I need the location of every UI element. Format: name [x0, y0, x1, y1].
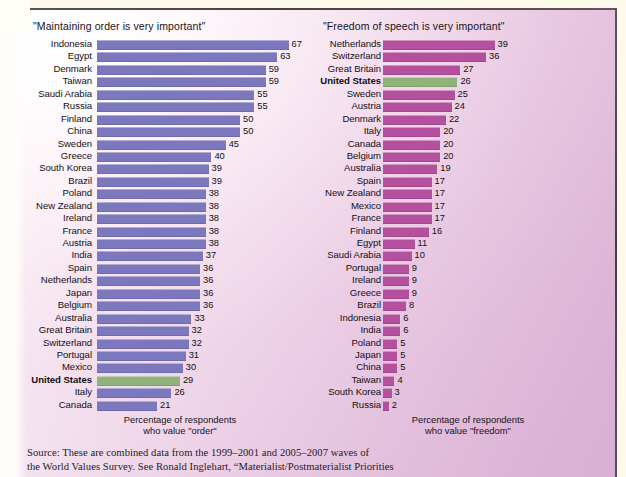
- table-row[interactable]: Saudi Arabia55: [28, 88, 328, 100]
- country-label: Poland: [28, 187, 92, 199]
- table-row[interactable]: Brazil8: [318, 299, 618, 311]
- table-row[interactable]: Mexico30: [28, 361, 328, 373]
- table-row[interactable]: India37: [28, 249, 328, 261]
- table-row[interactable]: Ireland9: [318, 274, 618, 286]
- country-label: Spain: [318, 175, 381, 187]
- table-row[interactable]: Netherlands36: [28, 274, 328, 286]
- bar-value-label: 37: [203, 249, 216, 261]
- country-label: Saudi Arabia: [28, 88, 92, 100]
- bar-value-label: 3: [392, 386, 400, 398]
- table-row[interactable]: Great Britain27: [318, 63, 618, 75]
- table-row[interactable]: Spain17: [318, 175, 618, 187]
- table-row[interactable]: Denmark59: [28, 63, 328, 75]
- table-row[interactable]: Italy26: [28, 386, 328, 398]
- bar-value-label: 19: [437, 162, 450, 174]
- table-row[interactable]: Sweden25: [318, 88, 618, 100]
- table-row[interactable]: Egypt63: [28, 50, 328, 62]
- table-row[interactable]: Indonesia6: [318, 312, 618, 324]
- bar-track: 63: [97, 50, 328, 62]
- bar-track: 17: [383, 187, 618, 199]
- table-row[interactable]: United States29: [28, 374, 328, 386]
- table-row[interactable]: Japan36: [28, 287, 328, 299]
- bar: [383, 77, 457, 87]
- bar: [383, 115, 446, 125]
- table-row[interactable]: Sweden45: [28, 138, 328, 150]
- table-row[interactable]: Spain36: [28, 262, 328, 274]
- table-row[interactable]: Finland50: [28, 113, 328, 125]
- table-row[interactable]: Russia55: [28, 100, 328, 112]
- bar-value-label: 67: [289, 38, 302, 50]
- bar: [383, 177, 432, 187]
- source-note: Source: These are combined data from the…: [27, 446, 497, 473]
- bar-track: 37: [97, 249, 328, 261]
- bar-value-label: 36: [200, 287, 213, 299]
- bar-track: 20: [383, 138, 618, 150]
- table-row[interactable]: Australia19: [318, 162, 618, 174]
- country-label: Indonesia: [28, 38, 92, 50]
- table-row[interactable]: Canada20: [318, 138, 618, 150]
- table-row[interactable]: Mexico17: [318, 200, 618, 212]
- bar-value-label: 31: [186, 349, 199, 361]
- country-label: Portugal: [28, 349, 92, 361]
- bar: [97, 52, 277, 62]
- bar-value-label: 38: [206, 225, 219, 237]
- country-label: Mexico: [28, 361, 92, 373]
- table-row[interactable]: Taiwan59: [28, 75, 328, 87]
- table-row[interactable]: Portugal31: [28, 349, 328, 361]
- table-row[interactable]: Ireland38: [28, 212, 328, 224]
- table-row[interactable]: Great Britain32: [28, 324, 328, 336]
- bar-track: 30: [97, 361, 328, 373]
- table-row[interactable]: United States26: [318, 75, 618, 87]
- bar-track: 26: [383, 75, 618, 87]
- table-row[interactable]: France38: [28, 225, 328, 237]
- table-row[interactable]: Netherlands39: [318, 38, 618, 50]
- table-row[interactable]: Greece9: [318, 287, 618, 299]
- table-row[interactable]: Egypt11: [318, 237, 618, 249]
- table-row[interactable]: Portugal9: [318, 262, 618, 274]
- table-row[interactable]: Finland16: [318, 225, 618, 237]
- table-row[interactable]: Indonesia67: [28, 38, 328, 50]
- table-row[interactable]: Switzerland36: [318, 50, 618, 62]
- country-label: Ireland: [318, 274, 381, 286]
- table-row[interactable]: New Zealand38: [28, 200, 328, 212]
- table-row[interactable]: China5: [318, 361, 618, 373]
- bar: [383, 314, 400, 324]
- bar-track: 24: [383, 100, 618, 112]
- table-row[interactable]: Poland38: [28, 187, 328, 199]
- table-row[interactable]: Greece40: [28, 150, 328, 162]
- table-row[interactable]: India6: [318, 324, 618, 336]
- table-row[interactable]: Canada21: [28, 399, 328, 411]
- table-row[interactable]: Japan5: [318, 349, 618, 361]
- bar-track: 50: [97, 113, 328, 125]
- table-row[interactable]: France17: [318, 212, 618, 224]
- bar-value-label: 9: [409, 287, 417, 299]
- table-row[interactable]: New Zealand17: [318, 187, 618, 199]
- table-row[interactable]: Austria24: [318, 100, 618, 112]
- bar: [383, 388, 392, 398]
- country-label: Canada: [28, 399, 92, 411]
- bar: [97, 363, 183, 373]
- table-row[interactable]: Russia2: [318, 399, 618, 411]
- table-row[interactable]: Australia33: [28, 312, 328, 324]
- bar: [383, 40, 495, 50]
- bar: [383, 301, 406, 311]
- bar-value-label: 29: [180, 374, 193, 386]
- table-row[interactable]: China50: [28, 125, 328, 137]
- table-row[interactable]: Italy20: [318, 125, 618, 137]
- bar-track: 26: [97, 386, 328, 398]
- country-label: China: [318, 361, 381, 373]
- table-row[interactable]: Denmark22: [318, 113, 618, 125]
- table-row[interactable]: South Korea3: [318, 386, 618, 398]
- bar-track: 6: [383, 324, 618, 336]
- table-row[interactable]: Belgium36: [28, 299, 328, 311]
- table-row[interactable]: Belgium20: [318, 150, 618, 162]
- table-row[interactable]: Austria38: [28, 237, 328, 249]
- country-label: India: [318, 324, 381, 336]
- bar-track: 29: [97, 374, 328, 386]
- table-row[interactable]: Brazil39: [28, 175, 328, 187]
- table-row[interactable]: Taiwan4: [318, 374, 618, 386]
- table-row[interactable]: Saudi Arabia10: [318, 249, 618, 261]
- table-row[interactable]: Switzerland32: [28, 337, 328, 349]
- table-row[interactable]: Poland5: [318, 337, 618, 349]
- table-row[interactable]: South Korea39: [28, 162, 328, 174]
